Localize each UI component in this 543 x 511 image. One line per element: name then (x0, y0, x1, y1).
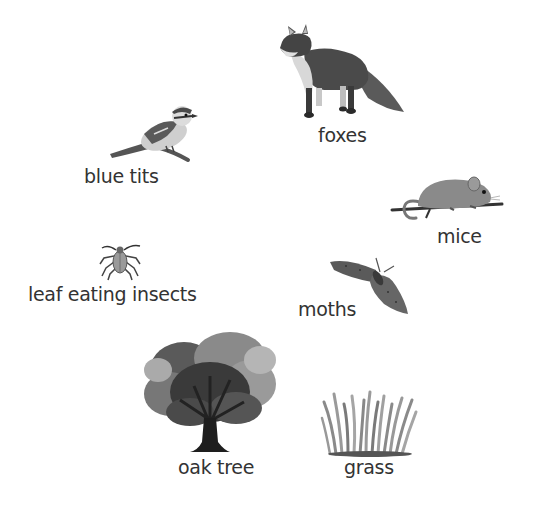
fox-icon (276, 24, 408, 120)
grass-icon (322, 392, 418, 456)
label-oak-tree: oak tree (178, 456, 254, 478)
mouse-icon (390, 176, 504, 220)
organism-oak-tree (140, 330, 280, 454)
insect-icon (98, 242, 144, 282)
organism-foxes (276, 24, 408, 120)
organism-leaf-eating-insects (98, 242, 144, 282)
oak-tree-icon (140, 330, 280, 454)
label-mice: mice (437, 225, 482, 247)
label-moths: moths (298, 298, 356, 320)
blue-tit-bird-icon (108, 104, 200, 164)
organism-grass (322, 392, 418, 456)
organism-blue-tits (108, 104, 200, 164)
label-leaf-eating-insects: leaf eating insects (28, 283, 197, 305)
label-grass: grass (344, 456, 394, 478)
organism-mice (390, 176, 504, 220)
label-blue-tits: blue tits (84, 165, 159, 187)
label-foxes: foxes (318, 124, 366, 146)
